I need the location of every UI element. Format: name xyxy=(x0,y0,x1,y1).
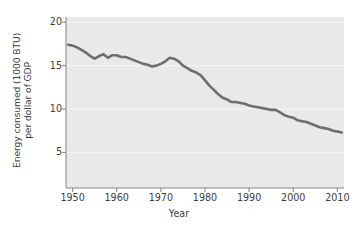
plot-background xyxy=(66,17,344,188)
chart-figure: Energy consumed (1000 BTU) per dollar of… xyxy=(0,0,358,237)
y-axis-tick-marks xyxy=(62,22,66,152)
x-tick-label: 1980 xyxy=(185,192,225,203)
x-tick-label: 1960 xyxy=(97,192,137,203)
x-tick-label: 1950 xyxy=(53,192,93,203)
x-tick-label: 1970 xyxy=(141,192,181,203)
x-tick-label: 2010 xyxy=(317,192,357,203)
x-tick-label: 1990 xyxy=(229,192,269,203)
x-axis-title: Year xyxy=(0,208,358,219)
x-tick-label: 2000 xyxy=(273,192,313,203)
x-axis-tick-labels: 1950196019701980199020002010 xyxy=(0,192,358,206)
